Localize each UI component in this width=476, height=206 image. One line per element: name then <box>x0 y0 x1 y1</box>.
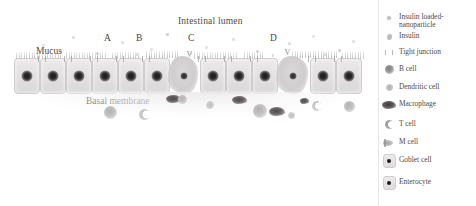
nucleus <box>152 71 163 82</box>
epithelial-cell-layer <box>14 58 366 92</box>
nucleus <box>181 72 188 79</box>
legend-label: B cell <box>399 64 416 73</box>
legend-item-t-cell: T cell <box>379 119 476 130</box>
enterocyte <box>14 58 40 94</box>
enterocyte <box>40 58 66 94</box>
pathway-marker-b: B <box>136 33 142 43</box>
enterocyte-icon <box>379 177 399 188</box>
legend-item-m-cell: M cell <box>379 137 476 148</box>
nucleus <box>318 71 329 82</box>
enterocyte <box>66 58 92 94</box>
tight-junction <box>142 56 150 62</box>
macrophage <box>300 98 309 104</box>
legend-label: Goblet cell <box>399 155 432 164</box>
pathway-marker-c: C <box>188 33 194 43</box>
enterocyte <box>118 58 144 94</box>
legend-label: Dendritic cell <box>399 82 439 91</box>
tight-junction <box>64 56 72 62</box>
legend-item-insulin-loaded-nanoparticle: Insulin loaded- nanoparticle <box>379 12 476 30</box>
m-cell-icon <box>379 137 399 148</box>
nanoparticle <box>121 41 124 44</box>
nanoparticle <box>205 46 208 49</box>
legend-item-enterocyte: Enterocyte <box>379 177 476 188</box>
nanoparticle-icon <box>379 12 399 23</box>
nucleus <box>260 71 271 82</box>
nucleus <box>48 71 59 82</box>
dendritic-cell <box>288 112 295 119</box>
nucleus <box>208 71 219 82</box>
legend-item-insulin: Insulin <box>379 31 476 42</box>
dendritic-cell-icon <box>379 82 399 93</box>
nucleus <box>100 71 111 82</box>
macrophage <box>232 96 247 104</box>
tight-junction <box>334 56 342 62</box>
goblet-cell <box>168 56 198 94</box>
nucleus <box>126 71 137 82</box>
b-cell <box>344 101 355 112</box>
insulin-molecule <box>272 54 274 57</box>
pathway-marker-d: D <box>270 33 277 43</box>
nucleus <box>344 71 355 82</box>
nanoparticle <box>312 35 315 38</box>
macrophage <box>269 107 285 116</box>
b-cell-icon <box>379 64 399 75</box>
enterocyte <box>200 58 226 94</box>
label-intestinal-lumen: Intestinal lumen <box>178 16 243 26</box>
enterocyte <box>144 58 170 94</box>
enterocyte <box>310 58 336 94</box>
tight-junction <box>224 56 232 62</box>
legend-item-b-cell: B cell <box>379 64 476 75</box>
t-cell-icon <box>379 119 399 130</box>
tight-junction <box>198 56 206 62</box>
tight-junction <box>90 56 98 62</box>
legend-item-dendritic-cell: Dendritic cell <box>379 82 476 93</box>
nanoparticle <box>72 36 75 39</box>
nucleus <box>22 71 33 82</box>
t-cell <box>139 109 150 120</box>
legend-label: M cell <box>399 137 418 146</box>
enterocyte <box>336 58 362 94</box>
legend-item-macrophage: Macrophage <box>379 99 476 110</box>
tight-junction-icon <box>379 47 399 58</box>
enterocyte <box>226 58 252 94</box>
macrophage-icon <box>379 99 399 110</box>
tight-junction <box>250 56 258 62</box>
legend-item-goblet-cell: Goblet cell <box>379 155 476 166</box>
nanoparticle <box>166 33 169 36</box>
legend-label: Insulin loaded- nanoparticle <box>399 12 444 30</box>
figure-canvas: Intestinal lumen Mucus Basal membrane A … <box>0 0 476 206</box>
nanoparticle <box>338 49 341 52</box>
enterocyte <box>252 58 278 94</box>
goblet-cell-icon <box>379 155 399 166</box>
nanoparticle <box>232 38 235 41</box>
legend-label: Macrophage <box>399 99 436 108</box>
b-cell <box>253 104 267 118</box>
legend-panel: Insulin loaded- nanoparticle Insulin Tig… <box>378 0 476 206</box>
pathway-marker-a: A <box>104 33 111 43</box>
legend-label: T cell <box>399 119 416 128</box>
tight-junction <box>38 56 46 62</box>
legend-label: Enterocyte <box>399 177 431 186</box>
tight-junction <box>116 56 124 62</box>
insulin-icon <box>379 31 399 42</box>
legend-item-tight-junction: Tight junction <box>379 47 476 58</box>
enterocyte <box>92 58 118 94</box>
nanoparticle <box>352 40 355 43</box>
nucleus <box>74 71 85 82</box>
t-cell <box>312 101 322 111</box>
legend-label: Tight junction <box>399 47 441 56</box>
nanoparticle <box>288 42 291 45</box>
legend-label: Insulin <box>399 31 420 40</box>
nucleus <box>290 72 297 79</box>
m-cell <box>276 56 308 94</box>
tight-junction <box>308 56 316 62</box>
nucleus <box>234 71 245 82</box>
b-cell <box>104 106 117 119</box>
b-cell <box>178 95 187 104</box>
